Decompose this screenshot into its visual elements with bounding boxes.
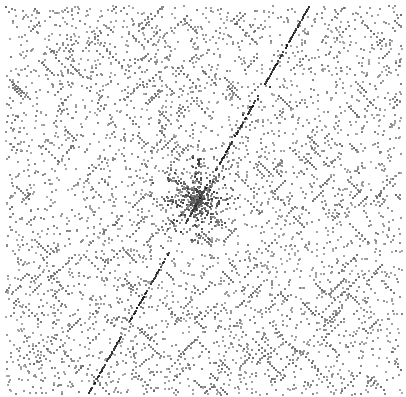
plot-area [0, 0, 406, 397]
dotplot-figure: Sequence Self-Comparison Dot Plot [0, 0, 406, 397]
dotplot-canvas [0, 0, 406, 397]
